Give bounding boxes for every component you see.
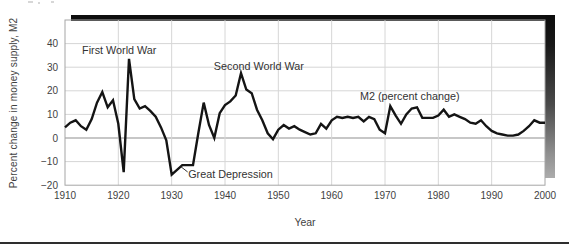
annotation-leader-line (181, 167, 188, 172)
m2-money-growth-line-chart: 403020100−10−201910192019301940195019601… (0, 0, 569, 251)
x-tick-label: 1980 (427, 190, 450, 201)
x-tick-label: 1940 (214, 190, 237, 201)
x-axis-label: Year (294, 216, 315, 228)
page-bottom-rule (0, 242, 569, 244)
y-tick-label: 20 (47, 85, 59, 96)
y-tick-label: 0 (52, 133, 58, 144)
x-tick-label: 1960 (321, 190, 344, 201)
x-tick-label: 1920 (107, 190, 130, 201)
y-tick-label: 40 (47, 38, 59, 49)
x-tick-label: 1950 (267, 190, 290, 201)
x-tick-label: 2000 (534, 190, 557, 201)
annotation-label: First World War (82, 44, 157, 56)
y-tick-label: 10 (47, 109, 59, 120)
x-tick-label: 1970 (374, 190, 397, 201)
textbook-figure-page: 403020100−10−201910192019301940195019601… (0, 0, 569, 251)
y-tick-label: −10 (41, 156, 58, 167)
m2-series-line (65, 59, 545, 175)
x-tick-label: 1930 (161, 190, 184, 201)
y-tick-label: 30 (47, 62, 59, 73)
x-tick-label: 1990 (481, 190, 504, 201)
x-tick-label: 1910 (54, 190, 77, 201)
annotation-label: Great Depression (188, 168, 273, 180)
annotation-label: M2 (percent change) (360, 90, 460, 102)
y-axis-label: Percent change in money supply, M2 (8, 18, 19, 189)
annotation-label: Second World War (214, 60, 304, 72)
